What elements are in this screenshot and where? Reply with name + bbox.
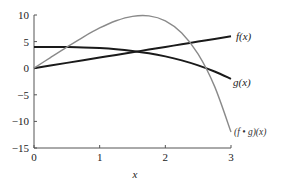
- y-tick-label: −10: [12, 115, 30, 127]
- y-tick-label: −5: [17, 89, 29, 101]
- series-labels: f(x) g(x) (f • g)(x): [233, 30, 266, 138]
- label-f: f(x): [236, 30, 252, 43]
- y-tick-label: 5: [24, 36, 30, 48]
- y-ticks: 1050−5−10−15: [12, 9, 37, 154]
- chart: 1050−5−10−15 0123 x f(x) g(x) (f • g)(x): [0, 0, 282, 191]
- series-group: [34, 15, 231, 132]
- y-tick-label: 0: [24, 62, 30, 74]
- y-tick-label: −15: [12, 142, 30, 154]
- x-tick-label: 1: [97, 151, 103, 163]
- x-tick-label: 3: [228, 151, 234, 163]
- x-tick-label: 2: [163, 151, 169, 163]
- y-tick-label: 10: [18, 9, 30, 21]
- x-tick-label: 0: [31, 151, 37, 163]
- label-g: g(x): [233, 76, 251, 89]
- fg-curve: [34, 15, 231, 132]
- label-fg: (f • g)(x): [234, 127, 266, 138]
- x-axis-label: x: [132, 168, 138, 180]
- axes: [34, 15, 231, 148]
- f-curve: [34, 36, 231, 68]
